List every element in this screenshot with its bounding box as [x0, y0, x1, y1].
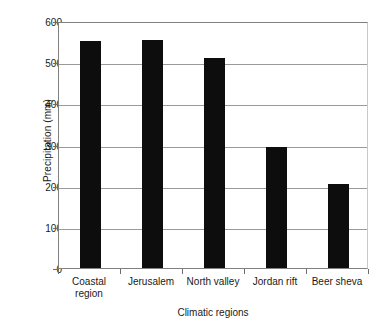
- x-tick-mark: [182, 269, 183, 274]
- bar: [266, 147, 287, 268]
- x-category-label: Coastal region: [58, 276, 120, 299]
- x-axis-title: Climatic regions: [58, 307, 368, 318]
- plot-area: [58, 22, 368, 269]
- precipitation-bar-chart: Precipitation (mm) 0100200300400500600 C…: [0, 0, 385, 334]
- bar: [204, 58, 225, 268]
- x-category-label: Beer sheva: [306, 276, 368, 288]
- x-tick-mark: [58, 269, 59, 274]
- x-tick-mark: [306, 269, 307, 274]
- x-tick-mark: [368, 269, 369, 274]
- x-category-label: Jordan rift: [244, 276, 306, 288]
- x-tick-mark: [120, 269, 121, 274]
- bar: [328, 184, 349, 268]
- bar: [142, 40, 163, 268]
- x-tick-mark: [244, 269, 245, 274]
- x-category-label: North valley: [182, 276, 244, 288]
- bar: [80, 41, 101, 268]
- x-category-label: Jerusalem: [120, 276, 182, 288]
